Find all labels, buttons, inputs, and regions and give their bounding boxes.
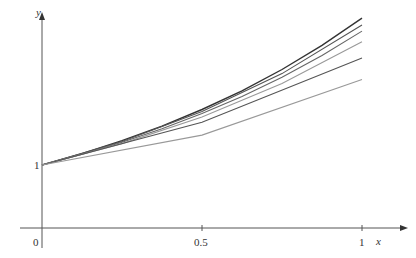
series-layer	[42, 18, 362, 165]
y-tick-label-1: 1	[34, 159, 40, 171]
x-tick-label-0.5: 0.5	[194, 236, 208, 248]
series-line-1	[42, 25, 362, 165]
chart-canvas: y 1 0 0.5 1 x	[0, 0, 416, 258]
origin-label: 0	[33, 236, 39, 248]
x-axis-arrow-icon	[400, 225, 408, 231]
y-axis-label: y	[35, 6, 41, 18]
x-tick-label-1: 1	[359, 236, 365, 248]
series-line-2	[42, 31, 362, 165]
x-axis-label: x	[375, 235, 381, 247]
series-line-0	[42, 18, 362, 165]
